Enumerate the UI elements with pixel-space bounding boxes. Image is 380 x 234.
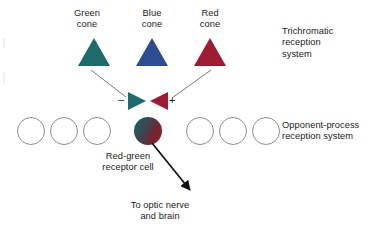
optic-nerve-label: To optic nerve and brain xyxy=(104,200,216,223)
minus-sign: – xyxy=(118,94,124,105)
red-cone-connector-line xyxy=(172,70,211,98)
opponent-process-system-label: Opponent-process reception system xyxy=(282,120,380,143)
trichromatic-system-label: Trichromatic reception system xyxy=(282,26,378,60)
blue-cone-label: Blue cone xyxy=(128,8,176,31)
red-green-receptor-cell-label: Red-green receptor cell xyxy=(90,151,166,174)
blue-cone-triangle xyxy=(136,38,168,66)
green-cone-triangle xyxy=(78,38,110,66)
receptor-circle-empty xyxy=(84,118,111,145)
receptor-circle-empty xyxy=(220,118,247,145)
color-vision-diagram: Green cone Blue cone Red cone – + Trichr… xyxy=(0,0,380,234)
receptor-circle-empty xyxy=(51,118,78,145)
red-terminal-triangle xyxy=(150,92,168,110)
plus-sign: + xyxy=(169,95,175,106)
red-cone-triangle xyxy=(194,38,226,66)
receptor-circle-empty xyxy=(187,118,214,145)
green-terminal-triangle xyxy=(128,92,146,110)
green-cone-label: Green cone xyxy=(58,8,116,31)
receptor-circle-empty xyxy=(253,118,280,145)
receptor-circle-empty xyxy=(18,118,45,145)
red-cone-label: Red cone xyxy=(186,8,234,31)
scan-artifact-marks xyxy=(3,38,5,84)
red-green-receptor-cell-circle xyxy=(134,117,162,145)
